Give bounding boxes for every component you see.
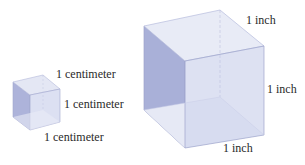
large-cube-top-label: 1 inch — [246, 14, 276, 26]
small-cube — [13, 75, 60, 130]
large-cube-front-face — [185, 46, 264, 148]
large-cube — [144, 10, 264, 148]
small-cube-bottom-label: 1 centimeter — [44, 131, 104, 143]
large-cube-bottom-label: 1 inch — [223, 142, 253, 154]
small-cube-top-label: 1 centimeter — [56, 68, 116, 80]
large-cube-right-label: 1 inch — [267, 83, 297, 95]
small-cube-right-label: 1 centimeter — [64, 98, 124, 110]
